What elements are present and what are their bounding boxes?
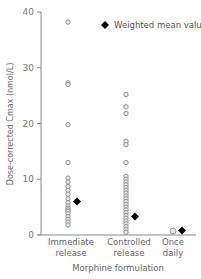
data-point-circle [66, 82, 70, 86]
y-tick-label: 40 [23, 7, 35, 17]
data-point-circle [124, 111, 128, 115]
legend-label: Weighted mean value [114, 20, 201, 30]
x-axis-label: Morphine formulation [72, 263, 164, 273]
data-point-circle [124, 230, 128, 234]
category-label: release [114, 248, 145, 258]
category-label: Immediate [48, 237, 94, 247]
data-points [66, 20, 176, 235]
y-tick-label: 0 [28, 230, 34, 240]
data-point-circle [170, 228, 176, 234]
weighted-mean-diamond [178, 227, 186, 235]
category-label: release [56, 248, 87, 258]
legend: Weighted mean value [101, 20, 201, 30]
data-point-circle [124, 105, 128, 109]
data-point-circle [66, 160, 70, 164]
data-point-circle [66, 223, 70, 227]
y-tick-label: 20 [23, 119, 35, 129]
diamond-icon [101, 21, 109, 29]
y-axis-label: Dose-corrected Cmax (nmol/L) [6, 63, 15, 186]
data-point-circle [124, 160, 128, 164]
y-tick-label: 10 [23, 174, 35, 184]
data-point-circle [66, 192, 70, 196]
data-point-circle [66, 20, 70, 24]
data-point-circle [124, 92, 128, 96]
category-label: daily [163, 248, 183, 258]
category-label: Controlled [107, 237, 151, 247]
category-label: Once [162, 237, 184, 247]
data-point-circle [66, 122, 70, 126]
scatter-chart: 010203040 Dose-corrected Cmax (nmol/L) I… [0, 0, 201, 279]
data-point-circle [124, 142, 128, 146]
data-point-circle [66, 180, 70, 184]
weighted-mean-diamond [73, 198, 81, 206]
weighted-means [73, 198, 186, 235]
category-labels: ImmediatereleaseControlledreleaseOncedai… [48, 237, 184, 258]
y-tick-label: 30 [23, 63, 35, 73]
weighted-mean-diamond [131, 213, 139, 221]
y-ticks: 010203040 [23, 7, 41, 240]
